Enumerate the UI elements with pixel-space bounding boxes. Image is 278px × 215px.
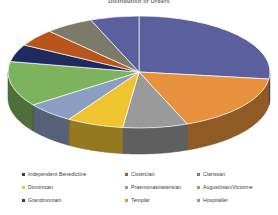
legend-swatch-icon [22, 186, 25, 189]
legend-item-praemonastratensian[interactable]: Praemonastratensian [125, 181, 197, 194]
legend-item-clarissan[interactable]: Clarissan [197, 168, 278, 181]
legend-swatch-icon [125, 173, 128, 176]
legend-item-augustinian-victorine[interactable]: Augustinian/Victorine [197, 181, 278, 194]
legend-label: Independent Benedictine [28, 168, 87, 181]
legend-item-hospitaller[interactable]: Hospitaller [197, 194, 278, 207]
pie-slice-side [123, 124, 188, 154]
legend-label: Hospitaller [203, 194, 228, 207]
chart-legend: Independent Benedictine Cistercian Clari… [0, 168, 278, 215]
legend-swatch-icon [197, 173, 200, 176]
legend-swatch-icon [22, 173, 25, 176]
legend-label: Augustinian/Victorine [203, 181, 253, 194]
chart-title: Distribution of Orders [0, 0, 278, 5]
legend-item-independent-benedictine[interactable]: Independent Benedictine [22, 168, 125, 181]
legend-swatch-icon [22, 199, 25, 202]
legend-swatch-icon [125, 199, 128, 202]
pie-chart-figure: Distribution of Orders Independent Bened… [0, 0, 278, 215]
legend-label: Grandmontain [28, 194, 61, 207]
legend-label: Clarissan [203, 168, 225, 181]
pie-slice-independent-benedictine[interactable] [139, 16, 270, 79]
legend-label: Praemonastratensian [131, 181, 181, 194]
legend-label: Templar [131, 194, 150, 207]
legend-label: Dominican [28, 181, 53, 194]
pie-chart-svg [0, 6, 278, 164]
pie-chart-plot-area [0, 6, 278, 164]
legend-swatch-icon [197, 199, 200, 202]
legend-item-grandmontain[interactable]: Grandmontain [22, 194, 125, 207]
legend-item-templar[interactable]: Templar [125, 194, 197, 207]
legend-item-dominican[interactable]: Dominican [22, 181, 125, 194]
legend-label: Cistercian [131, 168, 155, 181]
legend-item-cistercian[interactable]: Cistercian [125, 168, 197, 181]
pie-top-faces [8, 16, 270, 128]
legend-swatch-icon [197, 186, 200, 189]
legend-swatch-icon [125, 186, 128, 189]
